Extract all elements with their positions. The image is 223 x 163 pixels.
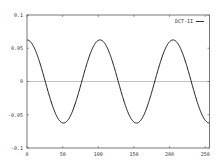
x-tick-label: 0 — [25, 151, 28, 157]
y-tick-label: 0.05 — [11, 45, 23, 51]
y-tick-label: 0 — [20, 78, 23, 84]
y-tick-label: -0.1 — [11, 145, 23, 151]
x-tick-label: 250 — [201, 151, 210, 157]
plot-area: 0501001502002500.10.050-0.05-0.1DCT-II — [8, 12, 210, 157]
legend-label: DCT-II — [175, 18, 193, 24]
chart: 0501001502002500.10.050-0.05-0.1DCT-II — [0, 0, 223, 163]
x-tick-label: 200 — [165, 151, 174, 157]
x-tick-label: 150 — [129, 151, 138, 157]
x-tick-label: 100 — [94, 151, 103, 157]
y-tick-label: 0.1 — [14, 12, 23, 18]
y-tick-label: -0.05 — [8, 112, 23, 118]
x-tick-label: 50 — [60, 151, 66, 157]
